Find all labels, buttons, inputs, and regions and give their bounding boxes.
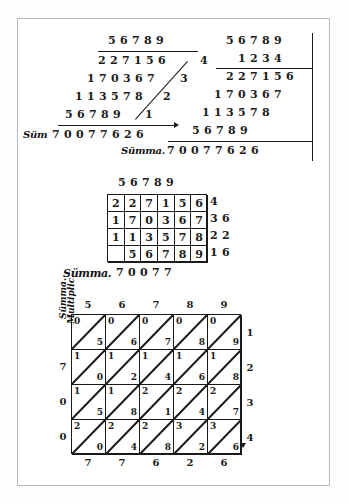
- mid-cell-1-5: 7: [191, 212, 208, 229]
- tl-partial-4-3: 8: [99, 109, 111, 121]
- tl-partial-3-0: 1: [73, 91, 85, 103]
- tr-multiplier: 1234: [236, 53, 284, 65]
- lattice-right-multiplier-1: 2: [244, 362, 256, 373]
- lattice-cell-2-4-units: 7: [233, 408, 239, 417]
- tl-carry-4-0: 1: [143, 109, 155, 121]
- tr-partial-3-4: 7: [248, 107, 260, 119]
- tr-multiplier-1: 2: [248, 53, 260, 65]
- page-frame: 56789 227156 170367 113578 56789 4 3 2 1…: [17, 18, 330, 486]
- tr-partial-3-3: 5: [236, 107, 248, 119]
- lattice-cell-3-0: 20: [72, 420, 106, 455]
- lattice-cell-0-0: 05: [72, 315, 106, 350]
- tl-partial-2-1: 7: [97, 73, 109, 85]
- tl-total-5: 6: [110, 129, 122, 141]
- lattice-cell-2-2: 21: [140, 385, 174, 420]
- tl-multiplicand-2: 7: [130, 35, 142, 47]
- lattice-cell-0-4-units: 9: [233, 338, 239, 347]
- tl-partial-4-1: 6: [75, 109, 87, 121]
- lattice-cell-1-0: 10: [72, 350, 106, 385]
- mid-total-4: 7: [162, 267, 174, 279]
- tr-partial-1: 227156: [224, 71, 296, 83]
- tr-top-rule: [216, 68, 312, 69]
- mid-cell-0-0: 2: [108, 195, 125, 212]
- mid-total-3: 7: [150, 267, 162, 279]
- tr-partial-4-0: 5: [190, 125, 202, 137]
- lattice-cell-0-1-units: 6: [131, 338, 137, 347]
- tr-partial-2-3: 3: [248, 89, 260, 101]
- tl-partial-3: 113578: [73, 91, 145, 103]
- tl-total-2: 0: [74, 129, 86, 141]
- lattice-cell-2-0: 15: [72, 385, 106, 420]
- mid-total: 70077: [114, 267, 174, 279]
- lattice-cell-1-3-tens: 1: [176, 352, 182, 361]
- tr-partial-3-1: 1: [212, 107, 224, 119]
- lattice-cell-0-0-units: 5: [97, 338, 103, 347]
- lattice-left-sum-digit-1: 0: [57, 396, 69, 407]
- tr-partial-1-1: 2: [236, 71, 248, 83]
- tr-partial-3-0: 1: [200, 107, 212, 119]
- lattice-cell-2-2-tens: 2: [142, 387, 148, 396]
- tr-right-border: [312, 33, 313, 161]
- mid-cell-1-1: 7: [125, 212, 142, 229]
- lattice-cell-3-1: 24: [106, 420, 140, 455]
- lattice-cell-1-0-tens: 1: [74, 352, 80, 361]
- lattice-cell-2-2-units: 1: [165, 408, 171, 417]
- tl-partial-1-0: 2: [96, 55, 108, 67]
- tr-multiplicand-4: 9: [272, 35, 284, 47]
- mid-cell-2-4: 7: [175, 229, 192, 246]
- lattice-cell-3-4-units: 6: [233, 443, 239, 452]
- tl-total-3: 7: [86, 129, 98, 141]
- lattice-cell-1-1: 12: [106, 350, 140, 385]
- tr-partial-1-3: 1: [260, 71, 272, 83]
- tr-partial-2-0: 1: [212, 89, 224, 101]
- tr-partial-1-2: 7: [248, 71, 260, 83]
- tr-total-7: 6: [249, 145, 261, 157]
- lattice-cell-0-2: 07: [140, 315, 174, 350]
- mid-cell-1-3: 3: [158, 212, 175, 229]
- mid-extra-r3: 16: [208, 247, 232, 259]
- tr-partial-1-0: 2: [224, 71, 236, 83]
- lattice-cell-1-4: 18: [208, 350, 242, 385]
- tl-partial-4: 56789: [63, 109, 123, 121]
- mid-extra-r1: 36: [208, 213, 232, 225]
- lattice-right-multiplier-3: 4: [244, 432, 256, 443]
- tr-partial-4-4: 9: [238, 125, 250, 137]
- lattice-cell-3-4-tens: 3: [210, 422, 216, 431]
- lattice-cell-0-3: 08: [174, 315, 208, 350]
- lattice-cell-2-1-tens: 1: [108, 387, 114, 396]
- lattice-cell-1-4-tens: 1: [210, 352, 216, 361]
- mid-cell-0-3: 1: [158, 195, 175, 212]
- tr-partial-2-5: 7: [272, 89, 284, 101]
- mid-cell-0-2: 7: [141, 195, 158, 212]
- mid-total-1: 0: [126, 267, 138, 279]
- mid-total-0: 7: [114, 267, 126, 279]
- tr-total-5: 6: [225, 145, 237, 157]
- lattice-cell-3-0-units: 0: [97, 443, 103, 452]
- lattice-cell-2-0-units: 5: [97, 408, 103, 417]
- tr-multiplicand-2: 7: [248, 35, 260, 47]
- lattice-top-digit-2: 7: [139, 299, 173, 310]
- tr-total-0: 7: [165, 145, 177, 157]
- tl-partial-4-0: 5: [63, 109, 75, 121]
- tr-partial-1-5: 6: [284, 71, 296, 83]
- tl-total-0: 7: [50, 129, 62, 141]
- mid-cell-3-0: [108, 246, 125, 263]
- tl-sum-arrow-icon: [174, 122, 179, 128]
- lattice-cell-3-1-units: 4: [131, 443, 137, 452]
- tr-partial-3-5: 8: [260, 107, 272, 119]
- tr-partial-2-1: 7: [224, 89, 236, 101]
- mid-cell-3-4: 8: [175, 246, 192, 263]
- tl-total-6: 2: [122, 129, 134, 141]
- tl-partial-1-3: 1: [132, 55, 144, 67]
- lattice-cell-3-1-tens: 2: [108, 422, 114, 431]
- mid-cell-2-2: 3: [141, 229, 158, 246]
- middle-grid: 22715617036711357856789: [107, 194, 207, 262]
- lattice-cell-3-2-units: 8: [165, 443, 171, 452]
- tl-summa-label: Süm: [23, 129, 47, 140]
- mid-total-2: 0: [138, 267, 150, 279]
- lattice-top-digit-0: 5: [71, 299, 105, 310]
- tr-total-1: 0: [177, 145, 189, 157]
- tr-multiplicand-3: 8: [260, 35, 272, 47]
- tl-partial-3-3: 5: [109, 91, 121, 103]
- tr-partial-4-2: 7: [214, 125, 226, 137]
